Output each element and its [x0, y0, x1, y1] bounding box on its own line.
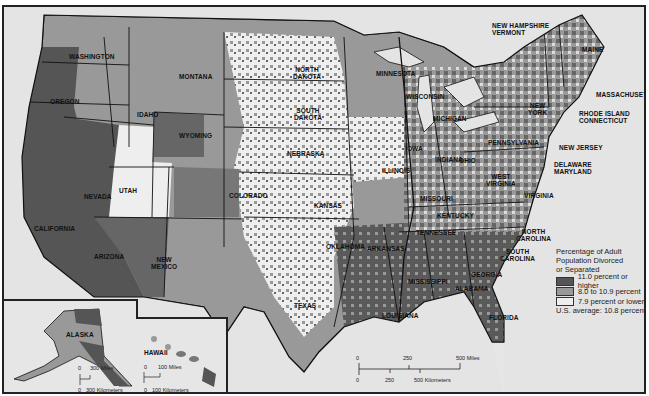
label-washington: WASHINGTON — [69, 53, 115, 60]
label-oklahoma: OKLAHOMA — [326, 243, 365, 250]
label-south-dakota: SOUTHDAKOTA — [294, 107, 322, 121]
label-nevada: NEVADA — [84, 193, 112, 200]
label-alabama: ALABAMA — [455, 285, 489, 292]
label-ohio: OHIO — [459, 157, 476, 164]
label-iowa: IOWA — [405, 145, 423, 152]
label-michigan: MICHIGAN — [433, 115, 467, 122]
label-colorado: COLORADO — [229, 192, 268, 199]
legend-item-mid: 8.0 to 10.9 percent — [556, 286, 646, 296]
label-massachusetts: MASSACHUSETTS — [596, 91, 646, 98]
legend-title: Percentage of Adult Population Divorced … — [556, 247, 646, 274]
scale-miles-0: 0 — [356, 355, 359, 361]
label-west-virginia: WESTVIRGINIA — [486, 173, 516, 187]
legend-item-high: 11.0 percent or higher — [556, 276, 646, 286]
label-arkansas: ARKANSAS — [367, 245, 405, 252]
map-frame: WASHINGTONOREGONCALIFORNIANEVADAIDAHOMON… — [2, 5, 646, 394]
label-virginia: VIRGINIA — [524, 192, 554, 199]
label-rhode-island-connecticut: RHODE ISLANDCONNECTICUT — [579, 110, 630, 124]
label-california: CALIFORNIA — [34, 225, 75, 232]
alaska-shape — [4, 301, 136, 394]
label-georgia: GEORGIA — [471, 271, 502, 278]
scale-km-500: 500 Kilometers — [414, 377, 451, 383]
label-wyoming: WYOMING — [179, 132, 212, 139]
label-north-carolina: NORTHCAROLINA — [516, 228, 551, 242]
scale-km-250: 250 — [385, 377, 394, 383]
label-new-mexico: NEWMEXICO — [151, 256, 177, 270]
label-missouri: MISSOURI — [420, 195, 453, 202]
label-south-carolina: SOUTHCAROLINA — [500, 248, 535, 262]
legend-us-average: U.S. average: 10.8 percent — [556, 306, 646, 315]
label-texas: TEXAS — [294, 302, 316, 309]
label-tennessee: TENNESSEE — [416, 229, 456, 236]
label-delaware-maryland: DELAWAREMARYLAND — [554, 161, 592, 175]
scale-km-0: 0 — [356, 377, 359, 383]
label-florida: FLORIDA — [489, 314, 519, 321]
label-hawaii: HAWAII — [144, 349, 168, 356]
label-montana: MONTANA — [179, 73, 212, 80]
label-new-jersey: NEW JERSEY — [559, 144, 603, 151]
label-idaho: IDAHO — [137, 111, 158, 118]
label-new-hampshire-vermont: NEW HAMPSHIREVERMONT — [492, 22, 549, 36]
label-louisiana: LOUISIANA — [382, 312, 419, 319]
scale-miles-500: 500 Miles — [456, 355, 480, 361]
label-oregon: OREGON — [50, 98, 80, 105]
legend-swatch-high — [556, 277, 574, 286]
legend-item-low: 7.9 percent or lower — [556, 296, 646, 306]
legend-swatch-low — [556, 297, 574, 306]
label-wisconsin: WISCONSIN — [406, 93, 444, 100]
hawaii-inset: HAWAII 0 100 Miles 0 100 Kilometers — [136, 317, 228, 394]
label-north-dakota: NORTHDAKOTA — [293, 66, 321, 80]
label-arizona: ARIZONA — [94, 253, 124, 260]
label-pennsylvania: PENNSYLVANIA — [488, 139, 539, 146]
label-minnesota: MINNESOTA — [376, 70, 415, 77]
alaska-inset: ALASKA 0 300 Miles 0 300 Kilometers — [2, 299, 138, 394]
label-utah: UTAH — [119, 187, 137, 194]
label-alaska: ALASKA — [66, 331, 94, 338]
scale-miles-250: 250 — [403, 355, 412, 361]
hawaii-islands — [136, 319, 228, 394]
label-kansas: KANSAS — [314, 202, 342, 209]
legend-swatch-mid — [556, 287, 574, 296]
label-maine: MAINE — [582, 46, 603, 53]
map-legend: Percentage of Adult Population Divorced … — [556, 247, 646, 315]
label-nebraska: NEBRASKA — [287, 150, 325, 157]
label-kentucky: KENTUCKY — [437, 212, 474, 219]
label-new-york: NEWYORK — [528, 102, 547, 116]
label-mississippi: MISSISSIPPI — [408, 278, 448, 285]
label-illinois: ILLINOIS — [382, 167, 410, 174]
